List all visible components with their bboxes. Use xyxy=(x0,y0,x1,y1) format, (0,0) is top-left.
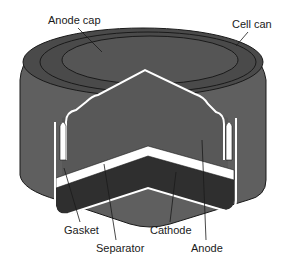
label-cathode: Cathode xyxy=(150,224,192,236)
label-anode-cap: Anode cap xyxy=(48,14,101,26)
label-gasket: Gasket xyxy=(64,224,99,236)
label-anode: Anode xyxy=(191,242,223,254)
gasket-left xyxy=(60,122,66,160)
gasket-right xyxy=(226,122,232,160)
button-cell-diagram xyxy=(0,0,286,269)
label-separator: Separator xyxy=(96,242,144,254)
label-cell-can: Cell can xyxy=(232,18,272,30)
